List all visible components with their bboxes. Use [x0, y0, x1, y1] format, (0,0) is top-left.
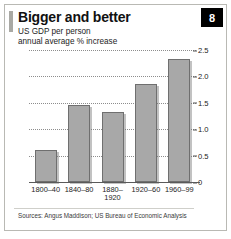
x-axis-tick-label-line: 1960–99 [163, 186, 196, 194]
chart-subtitle: US GDP per person annual average % incre… [18, 27, 117, 46]
x-axis-tick-label: 1960–99 [163, 186, 196, 194]
title-accent-bar [9, 11, 13, 32]
x-axis-tick-label: 1800–40 [29, 186, 62, 194]
x-axis-tick-label-line: 1920 [96, 194, 129, 202]
page-title: Bigger and better [18, 10, 131, 25]
x-axis-line [29, 182, 200, 183]
page-number-badge: 8 [201, 8, 223, 27]
y-axis-tick-label: 2.0 [198, 72, 209, 81]
x-axis-tick-label-line: 1800–40 [29, 186, 62, 194]
source-note: Sources: Angus Maddison; US Bureau of Ec… [18, 212, 187, 219]
chart-figure: Bigger and better US GDP per person annu… [0, 0, 231, 239]
bar [68, 105, 90, 182]
x-axis-tick-label: 1880–1920 [96, 186, 129, 203]
y-axis-tick-label: 0.5 [198, 151, 209, 160]
plot-area: 00.51.01.52.02.5 1800–401840–801880–1920… [29, 50, 196, 182]
source-divider [14, 208, 194, 209]
x-axis-tick-label-line: 1920–60 [129, 186, 162, 194]
x-axis-tick-label: 1840–80 [62, 186, 95, 194]
y-axis-tick-label: 2.5 [198, 46, 209, 55]
x-axis-tick-label-line: 1840–80 [62, 186, 95, 194]
x-axis-tick-label: 1920–60 [129, 186, 162, 194]
bar [168, 59, 190, 182]
chart-subtitle-line-1: US GDP per person [18, 27, 117, 37]
bar [35, 150, 57, 182]
y-axis-tick-label: 1.5 [198, 98, 209, 107]
bar [102, 112, 124, 182]
gridline [29, 50, 196, 51]
chart-subtitle-line-2: annual average % increase [18, 37, 117, 47]
y-axis-tick-label: 1.0 [198, 125, 209, 134]
bar [135, 84, 157, 182]
